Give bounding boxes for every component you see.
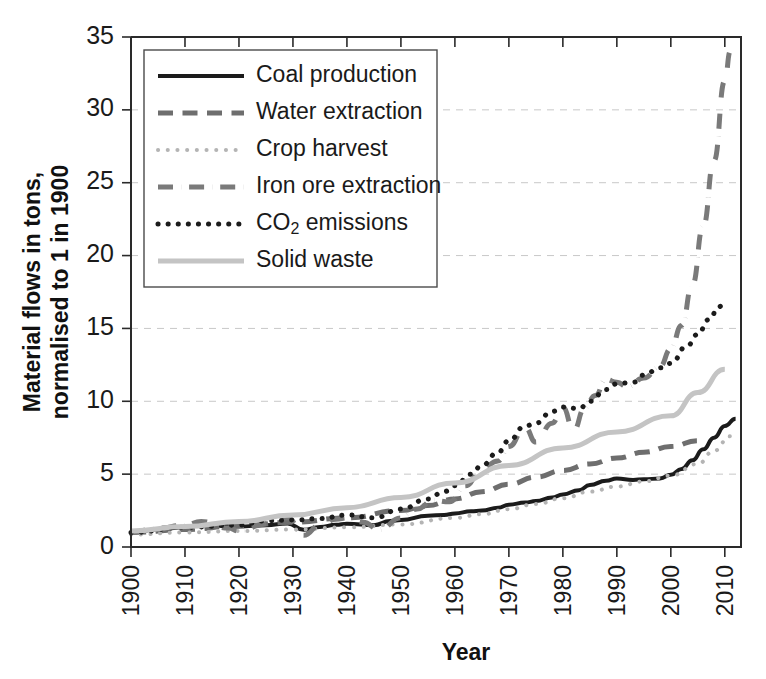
y-tick-label-15: 15 — [86, 312, 114, 340]
y-tick-label-20: 20 — [86, 239, 114, 267]
material-flows-line-chart: 0510152025303519001910192019301940195019… — [0, 0, 766, 679]
legend-label-3: Crop harvest — [256, 135, 388, 161]
x-tick-label-1920: 1920 — [226, 565, 252, 616]
x-tick-label-1990: 1990 — [604, 565, 630, 616]
legend-label-4: Iron ore extraction — [256, 172, 441, 198]
chart-container: 0510152025303519001910192019301940195019… — [0, 0, 766, 679]
x-tick-label-1950: 1950 — [388, 565, 414, 616]
series-line-coal-production — [131, 419, 736, 533]
x-tick-label-1960: 1960 — [442, 565, 468, 616]
y-tick-label-25: 25 — [86, 166, 114, 194]
x-tick-label-1970: 1970 — [496, 565, 522, 616]
legend-label-5: CO2 emissions — [256, 209, 408, 237]
legend-label-6: Solid waste — [256, 246, 374, 272]
x-tick-label-1900: 1900 — [118, 565, 144, 616]
y-tick-label-10: 10 — [86, 385, 114, 413]
x-tick-label-1940: 1940 — [334, 565, 360, 616]
y-tick-label-30: 30 — [86, 93, 114, 121]
y-tick-label-35: 35 — [86, 21, 114, 49]
y-axis-title-line2: normalised to 1 in 1900 — [47, 165, 73, 419]
x-tick-label-2000: 2000 — [658, 565, 684, 616]
x-tick-label-1980: 1980 — [550, 565, 576, 616]
x-tick-label-2010: 2010 — [712, 565, 738, 616]
y-axis-ticks: 05101520253035 — [86, 21, 131, 559]
y-tick-label-0: 0 — [100, 531, 114, 559]
x-axis-title: Year — [442, 639, 491, 665]
y-axis-title-line1: Material flows in tons, — [19, 172, 45, 412]
series-line-co2-emissions — [131, 299, 725, 532]
x-tick-label-1930: 1930 — [280, 565, 306, 616]
chart-legend: Coal productionWater extractionCrop harv… — [144, 50, 441, 287]
x-tick-label-1910: 1910 — [172, 565, 198, 616]
legend-label-1: Coal production — [256, 61, 417, 87]
y-tick-label-5: 5 — [100, 458, 114, 486]
legend-label-2: Water extraction — [256, 98, 423, 124]
